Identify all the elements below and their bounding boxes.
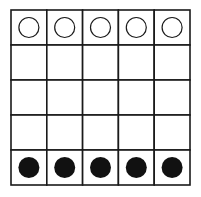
board-cell[interactable] xyxy=(47,45,83,80)
board-cell[interactable] xyxy=(47,10,83,45)
board-cell[interactable] xyxy=(47,115,83,150)
board-cell[interactable] xyxy=(83,80,119,115)
board-cell[interactable] xyxy=(11,150,47,185)
board-cell[interactable] xyxy=(118,45,154,80)
filled-circle-icon[interactable] xyxy=(18,157,39,178)
board-cell[interactable] xyxy=(154,80,190,115)
board-cell[interactable] xyxy=(154,10,190,45)
board-cell[interactable] xyxy=(154,115,190,150)
hollow-circle-icon[interactable] xyxy=(162,18,182,38)
filled-circle-icon[interactable] xyxy=(90,157,111,178)
board-cell[interactable] xyxy=(11,80,47,115)
filled-circle-icon[interactable] xyxy=(162,157,183,178)
board-cell[interactable] xyxy=(154,45,190,80)
hollow-circle-icon[interactable] xyxy=(91,18,111,38)
board-cell[interactable] xyxy=(11,10,47,45)
board-cell[interactable] xyxy=(83,10,119,45)
board-cell[interactable] xyxy=(83,150,119,185)
game-board xyxy=(10,9,191,186)
board-cell[interactable] xyxy=(118,80,154,115)
hollow-circle-icon[interactable] xyxy=(19,18,39,38)
board-cell[interactable] xyxy=(154,150,190,185)
board-cell[interactable] xyxy=(47,150,83,185)
board-cell[interactable] xyxy=(11,45,47,80)
hollow-circle-icon[interactable] xyxy=(55,18,75,38)
board-cell[interactable] xyxy=(83,115,119,150)
board-cell[interactable] xyxy=(11,115,47,150)
filled-circle-icon[interactable] xyxy=(126,157,147,178)
hollow-circle-icon[interactable] xyxy=(126,18,146,38)
board-cell[interactable] xyxy=(83,45,119,80)
board-grid xyxy=(10,9,191,186)
board-cell[interactable] xyxy=(118,115,154,150)
board-cell[interactable] xyxy=(118,10,154,45)
board-cell[interactable] xyxy=(47,80,83,115)
board-cell[interactable] xyxy=(118,150,154,185)
filled-circle-icon[interactable] xyxy=(54,157,75,178)
